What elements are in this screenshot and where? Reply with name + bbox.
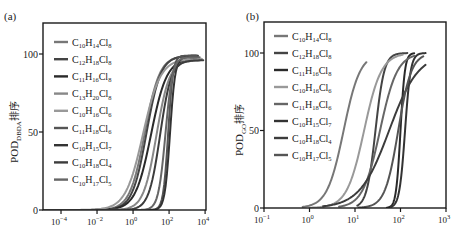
x-tick-label: 100 (301, 213, 313, 225)
y-tick-label: 0 (33, 205, 38, 216)
legend: C10H14Cl8C12H18Cl8C11H16Cl8C13H20Cl8C10H… (54, 37, 112, 187)
y-tick-label: 50 (28, 127, 38, 138)
legend-label: C10H17Cl5 (292, 150, 332, 163)
x-tick-label: 102 (161, 215, 173, 227)
legend-label: C10H14Cl8 (72, 37, 112, 50)
x-tick-label: 103 (438, 213, 450, 225)
legend-label: C10H14Cl8 (292, 31, 332, 44)
x-tick-label: 101 (347, 213, 359, 225)
legend-label: C12H18Cl8 (72, 54, 112, 66)
curve-C10H16Cl6 (43, 59, 202, 210)
y-tick-label: 50 (249, 125, 259, 136)
curve-C10H18Cl4 (43, 60, 203, 210)
legend-label: C11H16Cl8 (72, 71, 111, 84)
legend-label: C11H16Cl8 (292, 65, 331, 78)
legend-label: C10H17Cl5 (72, 174, 112, 187)
legend-label: C10H15Cl7 (292, 116, 332, 129)
curves (43, 56, 203, 210)
plot-frame (43, 23, 206, 210)
chart-panel-a: (a)05010010−410−2100102104PODDBDA排序C10H1… (4, 10, 210, 227)
panel-label: (b) (246, 10, 259, 23)
legend-label: C10H15Cl7 (72, 140, 112, 153)
legend-label: C10H18Cl4 (72, 157, 112, 170)
y-axis-label: PODDBDA排序 (8, 101, 23, 163)
curve-C13H20Cl8 (43, 60, 200, 210)
legend-label: C11H18Cl6 (292, 99, 332, 112)
x-tick-label: 10−1 (254, 213, 270, 225)
x-tick-label: 100 (125, 215, 137, 227)
legend-label: C10H16Cl6 (72, 105, 112, 118)
legend: C10H14Cl8C12H18Cl8C11H16Cl8C10H16Cl6C11H… (274, 31, 332, 163)
legend-label: C12H18Cl8 (292, 48, 332, 61)
y-tick-label: 0 (254, 203, 259, 214)
curves (303, 53, 426, 208)
y-axis-label: PODGO排序 (233, 104, 248, 156)
curve-C10H15Cl7 (43, 57, 198, 210)
curve-C11H18Cl6 (43, 56, 196, 210)
curve-C10H17Cl5 (43, 57, 200, 210)
legend-label: C10H16Cl6 (292, 82, 332, 95)
chart-canvas: (a)05010010−410−2100102104PODDBDA排序C10H1… (0, 0, 461, 237)
curve-C11H16Cl8 (43, 59, 202, 210)
y-tick-label: 100 (244, 48, 259, 59)
legend-label: C10H18Cl4 (292, 133, 332, 146)
x-tick-label: 10−2 (87, 215, 103, 227)
y-tick-label: 100 (23, 49, 38, 60)
x-tick-label: 102 (392, 213, 404, 225)
panel-label: (a) (4, 10, 17, 23)
chart-panel-b: (b)05010010−1100101102103PODGO排序C10H14Cl… (233, 10, 450, 225)
legend-label: C11H18Cl6 (72, 123, 112, 136)
legend-label: C13H20Cl8 (72, 88, 112, 101)
x-tick-label: 10−4 (51, 215, 68, 227)
x-tick-label: 104 (197, 215, 210, 227)
